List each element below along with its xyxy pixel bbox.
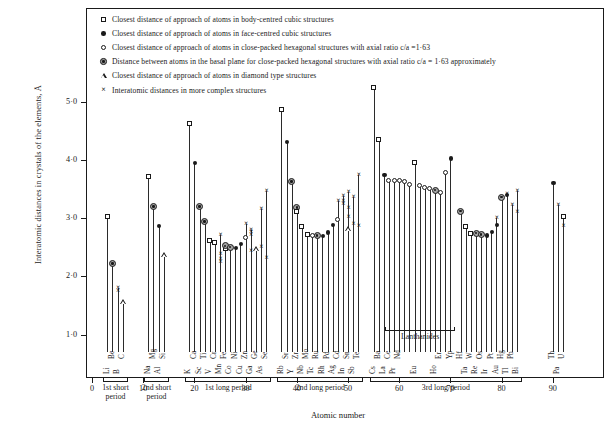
data-point-basal — [227, 244, 234, 251]
data-stem — [338, 201, 339, 352]
data-stem — [210, 240, 211, 352]
data-point-hcp — [443, 170, 448, 175]
data-stem — [481, 234, 482, 352]
element-symbol: Cr — [210, 352, 218, 359]
legend-label: Closest distance of approach of atoms in… — [111, 43, 430, 52]
data-point-complex: × — [218, 259, 224, 265]
data-stem — [256, 250, 257, 352]
element-symbol: Te — [353, 352, 361, 359]
data-point-bcc — [187, 121, 192, 126]
data-stem — [491, 232, 492, 352]
legend-item-complex: ×Interatomic distances in more complex s… — [96, 83, 596, 97]
data-point-bcc — [371, 85, 376, 90]
data-stem — [230, 247, 231, 352]
y-tick-label: 1·0 — [51, 330, 77, 339]
data-point-complex: × — [494, 215, 500, 221]
element-symbol: Mo — [302, 349, 310, 359]
period-bracket-long1 — [185, 378, 271, 382]
data-stem — [159, 226, 160, 352]
data-point-hcp — [438, 190, 443, 195]
element-symbol: Hf — [456, 351, 464, 359]
data-point-bcc — [212, 240, 217, 245]
data-point-complex: × — [561, 223, 567, 229]
sub-bracket-lanthanides — [385, 327, 455, 331]
data-stem — [123, 303, 124, 352]
data-point-bcc — [299, 224, 304, 229]
data-stem — [384, 175, 385, 352]
element-symbol: Ho — [430, 365, 438, 374]
data-stem — [235, 248, 236, 352]
legend-label: Interatomic distances in more complex st… — [111, 86, 266, 95]
element-symbol: Ga — [246, 365, 254, 374]
data-stem — [343, 196, 344, 352]
element-symbol: Se — [261, 352, 269, 359]
element-symbol: Hg — [497, 350, 505, 359]
element-symbol: Rb — [277, 365, 285, 374]
element-symbol: Nb — [297, 365, 305, 374]
y-tick-mark — [81, 160, 86, 161]
data-stem — [333, 225, 334, 352]
element-symbol: Ca — [190, 351, 198, 359]
data-stem — [507, 194, 508, 352]
data-point-fcc — [326, 230, 330, 234]
data-point-bcc — [412, 160, 417, 165]
data-point-hcp — [392, 178, 397, 183]
element-symbol: Pb — [507, 351, 515, 359]
element-symbol: Cs — [369, 366, 377, 374]
data-point-basal — [478, 231, 485, 238]
data-stem — [322, 236, 323, 352]
element-symbol: Pa — [553, 367, 561, 374]
element-symbol: Fe — [220, 352, 228, 359]
data-point-bcc — [376, 137, 381, 142]
data-point-bcc — [463, 224, 468, 229]
data-point-basal — [288, 178, 295, 185]
element-symbol: Th — [548, 351, 556, 359]
element-symbol: Os — [476, 351, 484, 359]
element-symbol: La — [379, 366, 387, 374]
data-point-complex: × — [514, 209, 520, 215]
data-stem — [189, 124, 190, 352]
element-symbol: Ti — [200, 353, 208, 359]
element-symbol: Re — [471, 366, 479, 374]
element-symbol: Li — [103, 367, 111, 374]
data-point-basal — [109, 260, 116, 267]
data-stem — [118, 288, 119, 352]
y-tick-mark — [81, 335, 86, 336]
data-point-fcc — [234, 246, 238, 250]
y-tick-label: 5·0 — [51, 97, 77, 106]
y-tick-mark — [81, 276, 86, 277]
data-point-complex: × — [258, 206, 264, 212]
element-symbol: Ba — [374, 351, 382, 359]
element-symbol: Ir — [481, 369, 489, 374]
data-point-bcc — [105, 214, 110, 219]
element-symbol: Tc — [307, 367, 315, 374]
data-point-bcc — [305, 232, 310, 237]
element-symbol: Er — [435, 352, 443, 359]
element-symbol: Pr — [389, 367, 397, 374]
element-symbol: Si — [159, 353, 167, 359]
element-symbol: Y — [287, 369, 295, 374]
legend: Closest distance of approach of atoms in… — [96, 12, 596, 97]
data-point-diamond — [120, 299, 126, 304]
data-point-complex: × — [346, 214, 352, 220]
element-symbol: C — [118, 354, 126, 359]
element-symbol: Zn — [241, 351, 249, 359]
data-stem — [164, 256, 165, 352]
element-symbol: Sc — [195, 367, 203, 374]
data-stem — [246, 224, 247, 352]
element-symbol: Bi — [512, 367, 520, 374]
legend-label: Closest distance of approach of atoms in… — [111, 29, 331, 38]
data-stem — [240, 244, 241, 352]
element-symbol: Pd — [323, 351, 331, 359]
sub-bracket-label: Lanthanides — [365, 332, 475, 341]
data-stem — [450, 159, 451, 352]
element-symbol: Ta — [461, 367, 469, 374]
legend-item-basal: Distance between atoms in the basal plan… — [96, 55, 596, 69]
open-triangle-icon — [96, 71, 111, 81]
y-tick-mark — [81, 102, 86, 103]
open-square-icon — [96, 14, 111, 24]
data-point-complex: × — [258, 244, 264, 250]
legend-item-bcc: Closest distance of approach of atoms in… — [96, 12, 596, 26]
element-symbol: B — [113, 369, 121, 374]
data-point-fcc — [382, 173, 386, 177]
